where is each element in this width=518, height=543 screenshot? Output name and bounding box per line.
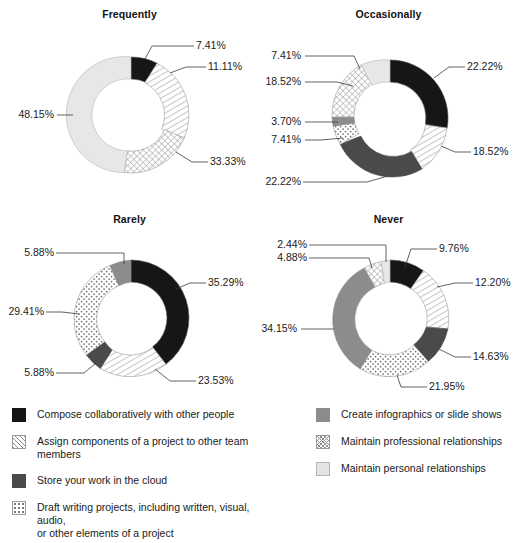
segment-assign xyxy=(145,63,189,138)
value-label-rarely-assign: 23.53% xyxy=(198,375,234,386)
legend-item-maintain-personal[interactable]: Maintain personal relationships xyxy=(316,462,516,476)
chart-panel-rarely: Rarely xyxy=(0,205,259,405)
donut-segments-frequently xyxy=(66,57,189,173)
value-label-never-store: 14.63% xyxy=(473,351,509,362)
legend-swatch-maintain-personal-icon xyxy=(316,462,330,476)
value-label-never-professional: 4.88% xyxy=(255,252,307,263)
legend-item-draft-writing[interactable]: Draft writing projects, including writte… xyxy=(12,501,262,540)
segment-infographics xyxy=(333,268,376,369)
donut-segments-rarely xyxy=(74,260,189,377)
value-label-occasionally-compose: 22.22% xyxy=(467,61,503,72)
legend-label-assign: Assign components of a project to other … xyxy=(37,435,262,461)
value-label-frequently-assign: 11.11% xyxy=(208,61,242,72)
value-label-never-compose: 9.76% xyxy=(439,243,469,254)
value-label-rarely-compose: 35.29% xyxy=(208,277,244,288)
legend-label-maintain-professional: Maintain professional relationships xyxy=(341,435,502,448)
segment-maintain-professional xyxy=(124,129,184,173)
donut-segments-never xyxy=(333,260,449,377)
legend-item-compose[interactable]: Compose collaboratively with other peopl… xyxy=(12,408,262,422)
value-label-occasionally-personal: 7.41% xyxy=(251,50,301,61)
value-label-never-assign: 12.20% xyxy=(475,277,511,288)
donut-svg-frequently xyxy=(0,0,259,200)
legend-swatch-store-cloud-icon xyxy=(12,474,26,488)
donut-frequently: 7.41% 11.11% 33.33% 48.15% xyxy=(0,0,259,200)
donut-chart-grid: Frequently xyxy=(0,0,518,405)
legend-label-store-cloud: Store your work in the cloud xyxy=(37,474,167,487)
legend-swatch-assign-icon xyxy=(12,435,26,449)
value-label-frequently-personal: 48.15% xyxy=(0,109,54,120)
donut-svg-occasionally xyxy=(259,0,518,200)
value-label-never-infographics: 34.15% xyxy=(247,323,297,334)
value-label-rarely-infographics: 5.88% xyxy=(0,247,54,258)
legend-swatch-infographics-icon xyxy=(316,408,330,422)
value-label-occasionally-draft: 7.41% xyxy=(251,134,301,145)
segment-maintain-personal xyxy=(66,57,131,173)
value-label-occasionally-infographics: 3.70% xyxy=(251,116,301,127)
legend-column-left: Compose collaboratively with other peopl… xyxy=(12,408,262,543)
value-label-frequently-compose: 7.41% xyxy=(196,40,226,51)
legend-item-store-cloud[interactable]: Store your work in the cloud xyxy=(12,474,262,488)
value-label-never-draft: 21.95% xyxy=(429,381,465,392)
value-label-rarely-store: 5.88% xyxy=(0,367,54,378)
legend-label-draft-writing-line1: Draft writing projects, including writte… xyxy=(37,501,249,526)
legend-item-assign[interactable]: Assign components of a project to other … xyxy=(12,435,262,461)
legend-swatch-draft-writing-icon xyxy=(12,501,26,515)
legend-item-maintain-professional[interactable]: Maintain professional relationships xyxy=(316,435,516,449)
legend-label-draft-writing-line2: or other elements of a project xyxy=(37,527,174,539)
chart-panel-occasionally: Occasionally xyxy=(259,0,518,200)
segment-draft-writing xyxy=(74,266,119,355)
legend-label-compose: Compose collaboratively with other peopl… xyxy=(37,408,234,421)
chart-panel-never: Never xyxy=(259,205,518,405)
value-label-rarely-draft: 29.41% xyxy=(0,306,44,317)
donut-segments-occasionally xyxy=(332,60,448,177)
donut-svg-never xyxy=(259,205,518,405)
legend-item-infographics[interactable]: Create infographics or slide shows xyxy=(316,408,516,422)
donut-rarely: 35.29% 23.53% 5.88% 29.41% 5.88% xyxy=(0,205,259,405)
segment-store-cloud xyxy=(340,136,422,177)
legend-label-infographics: Create infographics or slide shows xyxy=(341,408,502,421)
legend-label-draft-writing: Draft writing projects, including writte… xyxy=(37,501,262,540)
donut-never: 9.76% 12.20% 14.63% 21.95% 34.15% 4.88% … xyxy=(259,205,518,405)
value-label-never-personal: 2.44% xyxy=(255,239,307,250)
chart-panel-frequently: Frequently xyxy=(0,0,259,200)
legend-swatch-compose-icon xyxy=(12,408,26,422)
value-label-occasionally-assign: 18.52% xyxy=(473,146,509,157)
legend-swatch-maintain-professional-icon xyxy=(316,435,330,449)
legend-column-right: Create infographics or slide shows Maint… xyxy=(316,408,516,489)
value-label-frequently-professional: 33.33% xyxy=(210,156,246,167)
segment-compose xyxy=(390,60,448,128)
value-label-occasionally-professional: 18.52% xyxy=(249,76,301,87)
segment-compose xyxy=(131,260,189,364)
value-label-occasionally-store: 22.22% xyxy=(249,176,301,187)
donut-occasionally: 22.22% 18.52% 22.22% 7.41% 3.70% 18.52% … xyxy=(259,0,518,200)
legend-label-maintain-personal: Maintain personal relationships xyxy=(341,462,486,475)
chart-legend: Compose collaboratively with other peopl… xyxy=(0,408,518,533)
